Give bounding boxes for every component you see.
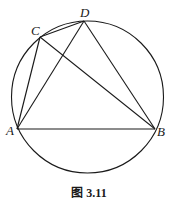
- point-label-C: C: [31, 23, 40, 38]
- circumcircle: [12, 21, 164, 173]
- segment-AC: [17, 37, 40, 129]
- segment-DB: [84, 21, 155, 129]
- segment-AD: [17, 21, 84, 129]
- point-label-B: B: [157, 124, 165, 139]
- point-label-A: A: [5, 123, 14, 138]
- segment-CD: [40, 21, 84, 37]
- geometry-figure: A B C D 图 3.11: [0, 0, 178, 206]
- figure-caption: 图 3.11: [71, 186, 106, 200]
- segment-CB: [40, 37, 155, 129]
- point-label-D: D: [79, 5, 90, 20]
